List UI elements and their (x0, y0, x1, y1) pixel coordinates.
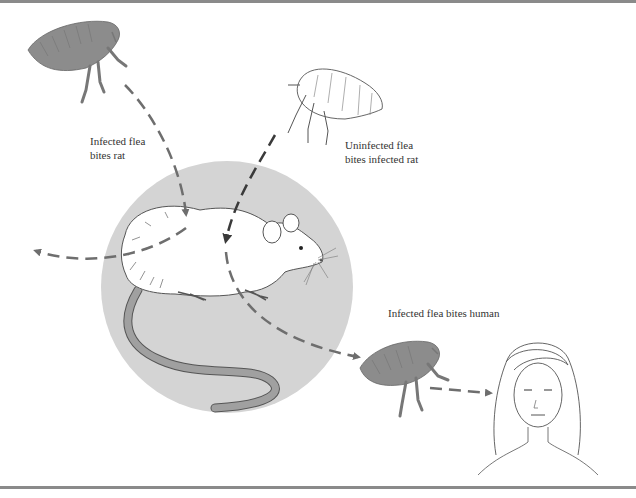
label-line-1: Uninfected flea (345, 138, 418, 152)
human-icon (478, 343, 598, 475)
label-infected-flea-bites-rat: Infected flea bites rat (90, 134, 145, 162)
arrow-flea-to-human (430, 388, 490, 393)
infected-flea-bottom-icon (360, 341, 448, 416)
label-line-2: bites rat (90, 148, 145, 162)
diagram-canvas (0, 0, 636, 498)
infected-flea-top-icon (28, 21, 126, 102)
label-line-2: bites infected rat (345, 152, 418, 166)
label-uninfected-flea-bites-infected-rat: Uninfected flea bites infected rat (345, 138, 418, 166)
label-line-1: Infected flea (90, 134, 145, 148)
label-infected-flea-bites-human: Infected flea bites human (388, 306, 499, 320)
uninfected-flea-icon (288, 69, 382, 145)
